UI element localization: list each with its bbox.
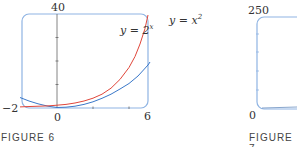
figure-7-caption: FIGURE 7 — [249, 132, 297, 147]
label-two-to-x-base: y = 2 — [120, 24, 149, 37]
figure-7-frame — [257, 17, 297, 109]
fig7-x-axis — [262, 107, 297, 108]
fig6-origin-label: 0 — [54, 112, 61, 123]
fig7-y-max-label: 250 — [248, 5, 269, 16]
label-two-to-x: y = 2x — [120, 24, 153, 36]
label-x-squared: y = x2 — [169, 14, 202, 26]
label-two-to-x-exp: x — [149, 23, 153, 31]
fig7-origin-label: 0 — [249, 110, 256, 121]
label-x-squared-base: y = x — [169, 14, 198, 27]
label-x-squared-exp: 2 — [198, 13, 202, 21]
figure-6-caption: FIGURE 6 — [1, 132, 55, 143]
fig6-x-min-label: −2 — [2, 103, 18, 114]
fig6-x-max-label: 6 — [144, 111, 151, 122]
fig6-y-max-label: 40 — [51, 2, 65, 13]
